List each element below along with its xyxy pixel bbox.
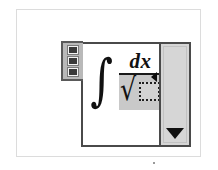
screenshot-root: ∫ dx √ — [0, 0, 218, 170]
handle-button-3[interactable] — [68, 68, 78, 76]
formula-pane[interactable]: ∫ dx √ — [83, 44, 159, 145]
fraction-numerator[interactable]: dx — [119, 50, 159, 73]
equation-editor-widget[interactable]: ∫ dx √ — [81, 42, 191, 147]
handle-toolbar[interactable] — [61, 41, 83, 81]
artifact-dot — [153, 162, 155, 164]
square-root-icon: √ — [120, 77, 136, 102]
handle-button-2[interactable] — [68, 57, 78, 65]
scrollbar-down-button[interactable] — [161, 128, 189, 139]
document-frame: ∫ dx √ — [16, 9, 201, 157]
chevron-down-icon — [166, 128, 184, 139]
empty-placeholder-slot[interactable] — [139, 82, 159, 101]
handle-button-1[interactable] — [68, 46, 78, 54]
integral-icon: ∫ — [90, 58, 113, 102]
formula-expression[interactable]: ∫ dx √ — [87, 48, 159, 110]
insertion-caret-marker — [151, 72, 157, 82]
vertical-scrollbar[interactable] — [159, 44, 189, 145]
